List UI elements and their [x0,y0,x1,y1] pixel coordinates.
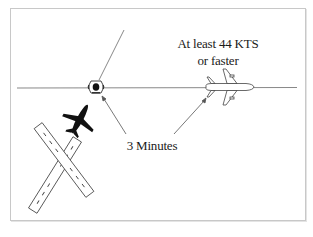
diagram-canvas [0,0,313,237]
time-arrows [102,96,206,134]
diagonal-radial [99,30,124,80]
horizontal-radial [17,88,297,89]
vor-icon [88,81,104,94]
crossing-runways [29,123,94,214]
airplane-white-icon [206,69,254,105]
speed-label-line1: At least 44 KTS [170,37,266,51]
time-label: 3 Minutes [110,139,194,153]
speed-label-line2: or faster [170,54,266,68]
airplane-black-icon [57,97,103,143]
